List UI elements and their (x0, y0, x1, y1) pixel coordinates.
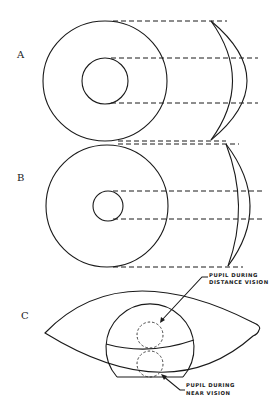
lens-outer-arc-a (211, 21, 247, 140)
pupil-distance-vision (137, 322, 163, 348)
leader-line-distance (162, 277, 208, 320)
eye-outline (45, 291, 260, 372)
panel-a: A (16, 21, 258, 141)
bifocal-diagram: A B C PUPIL DURING (0, 0, 275, 406)
outer-circle-b (46, 145, 168, 267)
lens-inner-arc-b (226, 144, 239, 266)
note-near-line1: PUPIL DURING (186, 382, 235, 388)
outer-circle-a (43, 21, 167, 141)
pupil-near-vision (137, 351, 163, 377)
leader-line-near (163, 376, 185, 390)
note-near-line2: NEAR VISION (186, 390, 230, 396)
pupil-circle-a (82, 58, 128, 104)
panel-label-a: A (16, 49, 25, 60)
note-distance-line2: DISTANCE VISION (209, 279, 269, 285)
panel-c: C PUPIL DURING DISTANCE VISION PUPIL DUR… (21, 272, 269, 396)
panel-label-b: B (17, 172, 24, 183)
panel-label-c: C (21, 310, 29, 321)
note-distance-line1: PUPIL DURING (209, 272, 258, 278)
panel-b: B (17, 144, 263, 267)
pupil-circle-b (93, 191, 123, 221)
